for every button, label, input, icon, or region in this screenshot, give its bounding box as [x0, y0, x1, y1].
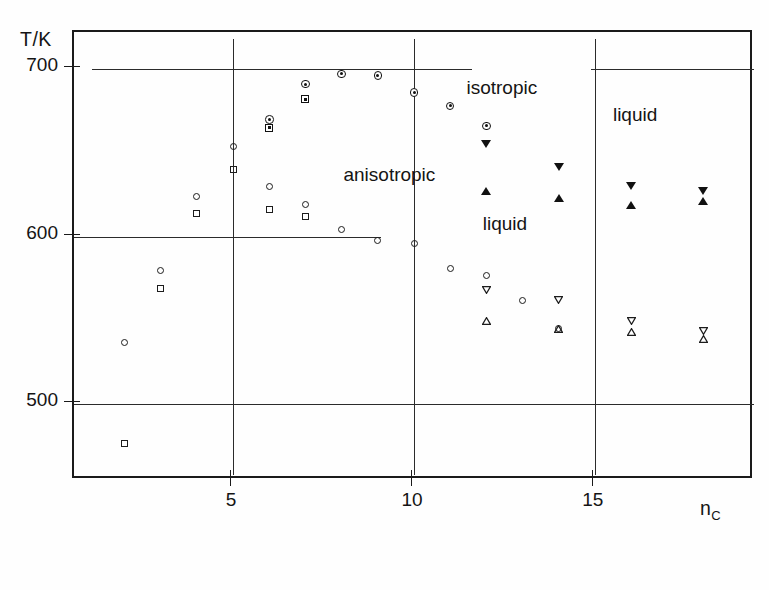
region-label-anisotropic: anisotropic: [343, 164, 435, 186]
x-axis-label-base: n: [700, 497, 711, 519]
region-label-isotropic: isotropic: [466, 77, 537, 99]
reference-line-vertical: [595, 39, 596, 475]
plot-frame: isotropicliquidanisotropicliquid: [72, 30, 752, 478]
marker-glyph: [266, 206, 273, 213]
marker-glyph: [411, 240, 418, 247]
x-axis-label: nC: [700, 497, 721, 523]
marker-glyph: [265, 124, 273, 132]
y-tick-label: 600: [8, 222, 58, 244]
x-axis-label-subscript: C: [711, 508, 720, 523]
marker-glyph: [157, 285, 164, 292]
marker-glyph: [482, 122, 491, 131]
marker-glyph: [447, 265, 454, 272]
marker-glyph: [446, 102, 455, 111]
marker-glyph: [338, 226, 345, 233]
x-tick-label: 15: [573, 489, 613, 511]
marker-glyph: [626, 182, 636, 190]
marker-glyph: [302, 213, 309, 220]
marker-glyph: [627, 317, 636, 325]
marker-glyph: [410, 88, 419, 97]
reference-line-vertical: [414, 39, 415, 475]
region-label-liquid: liquid: [483, 213, 527, 235]
marker-glyph: [193, 193, 200, 200]
marker-glyph: [554, 325, 563, 333]
marker-glyph: [230, 166, 237, 173]
marker-glyph: [301, 95, 309, 103]
marker-glyph: [301, 80, 310, 89]
marker-glyph: [374, 237, 381, 244]
marker-glyph: [698, 187, 708, 195]
marker-glyph: [230, 143, 237, 150]
marker-glyph: [266, 183, 273, 190]
figure-root: T/K nC 70060050051015 isotropicliquidani…: [0, 0, 769, 590]
marker-glyph: [554, 194, 564, 202]
y-tick-label: 700: [8, 54, 58, 76]
x-tick-label: 5: [211, 489, 251, 511]
marker-glyph: [698, 197, 708, 205]
marker-glyph: [121, 440, 128, 447]
marker-glyph: [482, 317, 491, 325]
marker-glyph: [483, 272, 490, 279]
region-label-liquid: liquid: [613, 104, 657, 126]
y-axis-label: T/K: [20, 28, 52, 51]
marker-glyph: [699, 327, 708, 335]
x-tick-label: 10: [392, 489, 432, 511]
marker-glyph: [121, 339, 128, 346]
marker-glyph: [554, 296, 563, 304]
marker-glyph: [627, 328, 636, 336]
y-tick-label: 500: [8, 389, 58, 411]
reference-line-horizontal: [74, 237, 381, 238]
marker-glyph: [481, 140, 491, 148]
reference-line-vertical: [233, 39, 234, 475]
marker-glyph: [482, 286, 491, 294]
marker-glyph: [626, 201, 636, 209]
marker-glyph: [554, 163, 564, 171]
marker-glyph: [302, 201, 309, 208]
marker-glyph: [157, 267, 164, 274]
marker-glyph: [337, 70, 346, 79]
marker-glyph: [519, 297, 526, 304]
reference-line-horizontal: [591, 69, 754, 70]
marker-glyph: [374, 71, 383, 80]
marker-glyph: [265, 115, 274, 124]
marker-glyph: [699, 335, 708, 343]
marker-glyph: [481, 187, 491, 195]
marker-glyph: [193, 210, 200, 217]
